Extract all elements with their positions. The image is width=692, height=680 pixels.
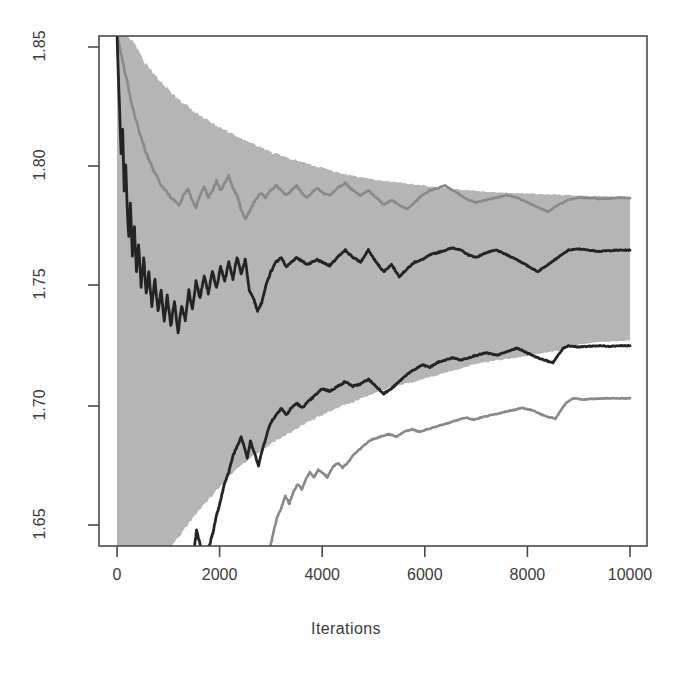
trace-lower-gray-trace xyxy=(268,398,630,558)
x-tick-label-10000: 10000 xyxy=(575,566,685,584)
y-tick-label-1.65: 1.65 xyxy=(31,494,49,554)
chart-figure: 1.651.701.751.801.85 0200040006000800010… xyxy=(0,0,692,680)
y-tick-label-1.85: 1.85 xyxy=(31,16,49,76)
y-tick-label-1.8: 1.80 xyxy=(31,135,49,195)
x-axis-title: Iterations xyxy=(0,620,692,638)
y-tick-label-1.75: 1.75 xyxy=(31,254,49,314)
x-tick-label-0: 0 xyxy=(62,566,172,584)
y-tick-label-1.7: 1.70 xyxy=(31,375,49,435)
x-tick-label-6000: 6000 xyxy=(370,566,480,584)
x-tick-label-4000: 4000 xyxy=(267,566,377,584)
x-tick-label-8000: 8000 xyxy=(472,566,582,584)
x-tick-label-2000: 2000 xyxy=(165,566,275,584)
